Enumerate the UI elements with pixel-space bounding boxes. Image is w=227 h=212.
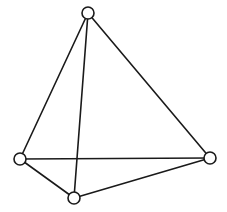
edge-bottom-right	[74, 158, 210, 198]
tetrahedron-graph-diagram	[0, 0, 227, 212]
edge-top-right	[88, 13, 210, 158]
edge-top-bottom	[74, 13, 88, 198]
node-left	[14, 153, 26, 165]
edge-left-right	[20, 158, 210, 159]
edge-left-bottom	[20, 159, 74, 198]
node-bottom	[68, 192, 80, 204]
edge-top-left	[20, 13, 88, 159]
node-right	[204, 152, 216, 164]
edges-layer	[20, 13, 210, 198]
node-top	[82, 7, 94, 19]
graph-canvas	[0, 0, 227, 212]
